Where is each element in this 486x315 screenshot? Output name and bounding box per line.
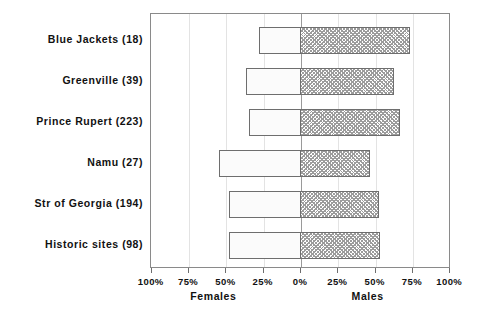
population-pyramid-chart: Blue Jackets (18)Greenville (39)Prince R…	[0, 0, 486, 315]
bar-segment-males	[301, 191, 379, 218]
category-label: Prince Rupert (223)	[0, 115, 143, 127]
x-tick-label: 25%	[317, 276, 357, 287]
bar-segment-males	[301, 27, 410, 54]
x-tick-label: 50%	[355, 276, 395, 287]
bar-segment-males	[301, 109, 400, 136]
x-tick-label: 75%	[392, 276, 432, 287]
x-tick-mark	[263, 268, 264, 273]
bar-segment-females	[246, 68, 301, 95]
x-tick-label: 50%	[205, 276, 245, 287]
x-tick-label: 25%	[243, 276, 283, 287]
bar-row	[151, 27, 449, 54]
x-tick-mark	[375, 268, 376, 273]
x-tick-mark	[188, 268, 189, 273]
axis-title-males: Males	[323, 290, 413, 302]
x-tick-label: 100%	[131, 276, 171, 287]
bar-row	[151, 232, 449, 259]
bar-segment-females	[219, 150, 301, 177]
x-tick-mark	[412, 268, 413, 273]
bar-row	[151, 109, 449, 136]
category-label: Greenville (39)	[0, 74, 143, 86]
plot-area	[150, 13, 450, 268]
category-label: Blue Jackets (18)	[0, 33, 143, 45]
bar-segment-females	[229, 232, 301, 259]
bar-row	[151, 68, 449, 95]
bar-segment-females	[259, 27, 301, 54]
bar-row	[151, 191, 449, 218]
bar-segment-males	[301, 232, 380, 259]
axis-title-females: Females	[168, 290, 258, 302]
x-tick-label: 100%	[429, 276, 469, 287]
x-tick-mark	[151, 268, 152, 273]
bar-segment-females	[229, 191, 301, 218]
x-tick-mark	[449, 268, 450, 273]
x-tick-mark	[300, 268, 301, 273]
x-tick-label: 0%	[280, 276, 320, 287]
category-label: Namu (27)	[0, 156, 143, 168]
bar-row	[151, 150, 449, 177]
x-tick-label: 75%	[168, 276, 208, 287]
category-label: Str of Georgia (194)	[0, 197, 143, 209]
x-tick-mark	[225, 268, 226, 273]
bar-segment-females	[249, 109, 301, 136]
bar-segment-males	[301, 150, 370, 177]
category-label: Historic sites (98)	[0, 238, 143, 250]
x-tick-mark	[337, 268, 338, 273]
bar-segment-males	[301, 68, 394, 95]
